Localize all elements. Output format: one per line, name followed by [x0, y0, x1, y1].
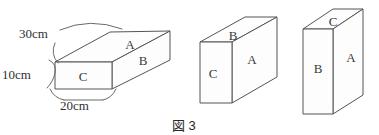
depth-brace-arc — [60, 23, 122, 30]
v1-side-face-label: B — [139, 53, 148, 68]
figure-caption: 図 3 — [172, 118, 196, 133]
v1-top-face-label: A — [125, 37, 135, 52]
view-1-box: A B C — [55, 31, 170, 89]
figure-container: A B C 30cm 10cm 20cm — [0, 0, 379, 135]
v2-front-face-label: A — [247, 52, 257, 67]
view-3-box: C A B — [303, 9, 363, 114]
height-brace-arc — [47, 60, 55, 88]
v3-front-face-label: A — [346, 50, 356, 65]
width-dimension-label: 20cm — [60, 98, 89, 113]
height-dimension-label: 10cm — [2, 67, 31, 82]
view-2-box: B A C — [200, 17, 277, 103]
figure-diagram: A B C 30cm 10cm 20cm — [0, 0, 379, 135]
v2-side-face-label: C — [209, 66, 218, 81]
depth-brace-hook — [53, 43, 58, 63]
v1-front-face-label: C — [79, 69, 88, 84]
figure-caption-text: 図 3 — [172, 118, 196, 133]
depth-dimension-label: 30cm — [19, 26, 48, 41]
v2-top-face-label: B — [229, 28, 238, 43]
v3-top-face-label: C — [329, 14, 338, 29]
width-brace-right-hook — [103, 89, 116, 100]
v3-side-face-label: B — [314, 61, 323, 76]
